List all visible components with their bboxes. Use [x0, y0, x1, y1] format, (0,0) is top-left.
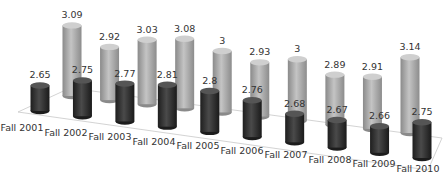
category-label: Fall 2006	[221, 145, 264, 156]
data-label: 2.92	[99, 31, 120, 42]
data-label: 3	[294, 43, 300, 54]
data-label: 3.09	[61, 9, 82, 20]
front-cylinder: 2.75	[72, 64, 93, 119]
data-label: 2.75	[411, 106, 432, 117]
category-label: Fall 2008	[309, 154, 352, 165]
data-label: 2.89	[324, 59, 345, 70]
data-label: 2.93	[249, 46, 270, 57]
front-cylinder: 2.68	[284, 98, 305, 146]
data-label: 3.08	[174, 23, 195, 34]
category-label: Fall 2002	[45, 127, 88, 138]
data-label: 2.81	[157, 69, 178, 80]
category-label: Fall 2009	[353, 158, 396, 169]
category-label: Fall 2005	[177, 140, 220, 151]
back-cylinder: 3.08	[174, 23, 195, 112]
category-label: Fall 2010	[397, 163, 440, 174]
front-cylinder: 2.75	[411, 106, 432, 161]
data-label: 2.76	[242, 84, 263, 95]
data-label: 2.91	[362, 61, 383, 72]
data-label: 2.67	[327, 104, 348, 115]
data-label: 3.14	[399, 41, 420, 52]
front-cylinder: 2.81	[157, 69, 178, 130]
data-label: 3	[219, 35, 225, 46]
back-cylinder: 2.91	[362, 61, 383, 132]
back-cylinder: 3.03	[137, 24, 158, 108]
data-label: 2.65	[29, 69, 50, 80]
front-cylinder: 2.77	[114, 68, 135, 125]
data-label: 2.75	[72, 64, 93, 75]
category-label: Fall 2001	[1, 122, 44, 133]
front-cylinder: 2.66	[369, 110, 390, 156]
front-cylinder: 2.76	[242, 84, 263, 140]
category-label: Fall 2007	[265, 149, 308, 160]
category-label: Fall 2004	[133, 136, 176, 147]
category-label: Fall 2003	[89, 131, 132, 142]
data-label: 2.8	[202, 75, 217, 86]
data-label: 2.66	[369, 110, 390, 121]
cylinder-chart: 3.092.923.033.0832.9332.892.913.14 2.652…	[0, 0, 447, 175]
front-cylinder: 2.67	[327, 104, 348, 151]
front-cylinder: 2.65	[29, 69, 50, 114]
front-cylinder: 2.8	[200, 75, 219, 135]
data-label: 3.03	[137, 24, 158, 35]
data-label: 2.68	[284, 98, 305, 109]
data-label: 2.77	[114, 68, 135, 79]
